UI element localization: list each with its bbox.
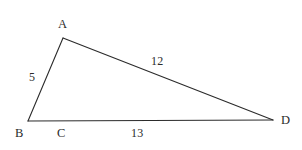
vertex-label-a: A — [58, 18, 67, 30]
point-label-c: C — [57, 127, 66, 139]
edge-ad-line — [63, 38, 273, 120]
side-length-label-bd: 13 — [131, 127, 143, 139]
vertex-label-d: D — [281, 114, 290, 126]
side-length-label-ab: 5 — [29, 71, 35, 83]
edge-bd-line — [28, 120, 273, 121]
triangle-shape — [0, 0, 302, 150]
side-length-label-ad: 12 — [151, 55, 163, 67]
geometry-figure: A B D C 5 12 13 — [0, 0, 302, 150]
vertex-label-b: B — [15, 127, 24, 139]
